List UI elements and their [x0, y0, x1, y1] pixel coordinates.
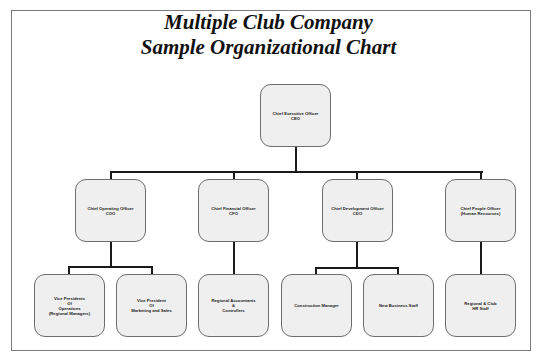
connector-to-vp-marketing — [151, 266, 153, 274]
node-coo: Chief Operating Officer COO — [75, 179, 146, 242]
node-ceo: Chief Executive Officer CEO — [260, 84, 331, 147]
node-construction-manager-line1: Construction Manager — [294, 303, 338, 308]
connector-to-vp-operations — [68, 266, 70, 274]
node-cfo-abbr: CFO — [229, 211, 238, 216]
connector-to-coo — [110, 171, 112, 179]
node-cdo-abbr: CDO — [353, 211, 362, 216]
node-vp-marketing-line3: Marketing and Sales — [131, 308, 172, 313]
connector-ceo-down — [295, 147, 297, 173]
node-hr-staff-line2: HR Staff — [472, 306, 489, 311]
connector-to-construction-manager — [315, 267, 317, 274]
node-ceo-abbr: CEO — [291, 116, 300, 121]
connector-coo-down — [110, 242, 112, 268]
title-line-2: Sample Organizational Chart — [0, 35, 539, 60]
connector-to-cdo — [356, 171, 358, 179]
connector-level2-bar — [110, 171, 483, 173]
node-vp-operations: Vice Presidents Of Operations (Regional … — [34, 274, 105, 337]
node-new-business-staff: New Business Staff — [363, 274, 434, 337]
node-cpo-subtitle: (Human Resources) — [461, 211, 501, 216]
connector-cpo-down — [480, 242, 482, 274]
node-vp-marketing: Vice President Of Marketing and Sales — [116, 274, 187, 337]
connector-cdo-down — [356, 242, 358, 268]
node-regional-accountants-line3: Controllers — [222, 308, 244, 313]
connector-coo-bar — [68, 266, 153, 268]
node-vp-operations-line4: (Regional Managers) — [49, 311, 90, 316]
node-new-business-staff-line1: New Business Staff — [379, 303, 418, 308]
connector-to-cpo — [480, 171, 482, 179]
connector-to-cfo — [233, 171, 235, 179]
title-line-1: Multiple Club Company — [0, 10, 539, 35]
connector-cdo-bar — [315, 267, 399, 269]
node-coo-abbr: COO — [106, 211, 116, 216]
node-cpo: Chief People Officer (Human Resources) — [445, 179, 516, 242]
chart-title: Multiple Club Company Sample Organizatio… — [0, 10, 539, 60]
node-cfo: Chief Financial Officer CFO — [198, 179, 269, 242]
node-construction-manager: Construction Manager — [281, 274, 352, 337]
node-hr-staff: Regional & Club HR Staff — [445, 274, 516, 337]
node-regional-accountants: Regional Accountants & Controllers — [198, 274, 269, 337]
node-cdo: Chief Development Officer CDO — [322, 179, 393, 242]
connector-cfo-down — [233, 242, 235, 274]
connector-to-new-business-staff — [397, 267, 399, 274]
